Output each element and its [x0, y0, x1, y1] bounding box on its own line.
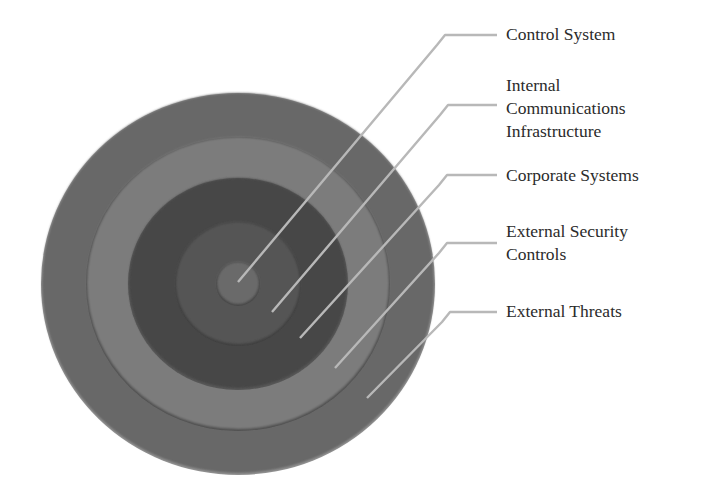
label-line: Communications [506, 97, 626, 120]
concentric-layers [41, 93, 435, 475]
label-line: Infrastructure [506, 120, 626, 143]
label-external-threats: External Threats [506, 300, 622, 323]
label-line: Controls [506, 243, 628, 266]
label-external-security-controls: External Security Controls [506, 220, 628, 266]
label-corporate-systems: Corporate Systems [506, 164, 639, 187]
label-internal-communications-infrastructure: Internal Communications Infrastructure [506, 74, 626, 143]
label-control-system: Control System [506, 23, 615, 46]
label-line: Internal [506, 74, 626, 97]
label-line: Corporate Systems [506, 164, 639, 187]
label-line: External Security [506, 220, 628, 243]
layer-control-system [217, 262, 259, 304]
label-line: Control System [506, 23, 615, 46]
label-line: External Threats [506, 300, 622, 323]
